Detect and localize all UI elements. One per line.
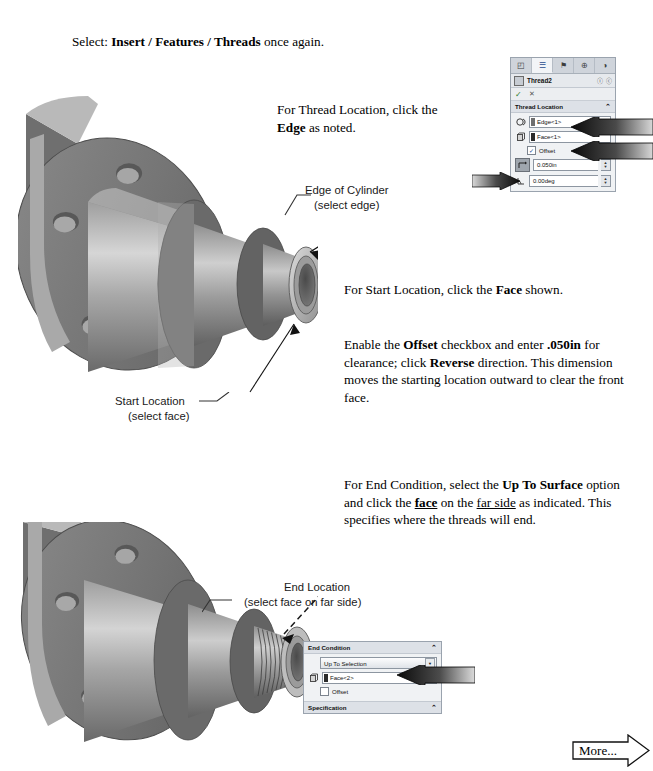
offset-checkbox-label: Offset [539, 147, 555, 154]
callout-end-sub: (select face on far side) [244, 595, 361, 610]
accept-checkmark-icon[interactable]: ✓ [515, 90, 522, 99]
chevron-up-icon[interactable]: ⌃ [605, 103, 611, 111]
dimxpert-manager-tab[interactable]: ⊕ [574, 58, 595, 73]
pin-icon[interactable]: ⓒ [606, 76, 612, 85]
feature-name-label: Thread2 [527, 77, 552, 84]
offset-text-b: checkbox and enter [438, 337, 547, 352]
property-manager-tab-strip[interactable]: ◰ ☰ ⚑ ⊕ ◑ [511, 58, 615, 74]
end-condition-section-header[interactable]: End Condition ⌃ [304, 642, 441, 654]
offset-bold-offset: Offset [403, 337, 437, 352]
callout-edge-title: Edge of Cylinder [305, 183, 389, 198]
thread-location-label: Thread Location [515, 103, 563, 110]
specification-chevron-up-icon[interactable]: ⌃ [431, 704, 437, 712]
specification-label: Specification [308, 704, 347, 711]
edge-color-swatch [531, 118, 535, 126]
start-location-text-a: For Start Location, click the [344, 282, 496, 297]
end-cond-text-a: For End Condition, select the [344, 477, 502, 492]
annotation-arrow-edge [569, 117, 653, 137]
end-cond-bold-upto: Up To Surface [502, 477, 583, 492]
thread-location-line1: For Thread Location, click the [277, 102, 438, 117]
thread-location-line2: as noted. [306, 120, 356, 135]
cancel-x-icon[interactable]: ✕ [529, 90, 535, 98]
angle-field[interactable]: 0.00deg [529, 175, 598, 187]
callout-end-location: End Location (select face on far side) [244, 580, 361, 610]
end-face-color-swatch [324, 674, 328, 682]
property-manager-icon: ☰ [539, 61, 546, 70]
end-offset-checkbox-label: Offset [332, 688, 348, 695]
angle-value: 0.00deg [531, 178, 555, 184]
callout-start-location: Start Location (select face) [115, 394, 190, 424]
intro-suffix: once again. [261, 34, 324, 49]
reverse-direction-button[interactable] [515, 158, 530, 172]
intro-instruction: Select: Insert / Features / Threads once… [72, 33, 472, 51]
end-offset-checkbox[interactable] [320, 687, 329, 696]
callout-leader-start [199, 392, 233, 412]
face-selection-icon [515, 132, 526, 143]
display-manager-icon: ◑ [603, 61, 608, 70]
lower-shaft-model-threaded [18, 522, 318, 771]
annotation-arrow-reverse [472, 172, 520, 190]
upper-shaft-model [18, 84, 318, 424]
angle-stepper-down-icon[interactable]: ▼ [604, 181, 608, 185]
end-condition-label: End Condition [308, 644, 350, 651]
more-button[interactable]: More... [572, 734, 650, 767]
end-cond-text-c: on the [437, 495, 476, 510]
thread-location-bold-edge: Edge [277, 120, 306, 135]
offset-bold-reverse: Reverse [430, 355, 475, 370]
angle-stepper[interactable]: ▲▼ [601, 175, 611, 187]
help-icon[interactable]: ⓘ [597, 76, 603, 85]
callout-leader-edge [283, 187, 311, 217]
ok-cancel-row[interactable]: ✓ ✕ [511, 88, 615, 101]
offset-bold-value: .050in [547, 337, 581, 352]
offset-checkbox[interactable] [527, 146, 536, 155]
annotation-arrow-face [569, 141, 653, 161]
callout-end-title: End Location [284, 580, 361, 595]
paragraph-start-location: For Start Location, click the Face shown… [344, 281, 644, 299]
end-condition-chevron-up-icon[interactable]: ⌃ [431, 644, 437, 652]
end-cond-underline-farside: far side [477, 495, 516, 510]
end-cond-underline-face: face [415, 495, 438, 510]
thread-location-section-header[interactable]: Thread Location ⌃ [511, 101, 615, 113]
property-manager-title-bar: Thread2 ⓘ ⓒ [511, 74, 615, 88]
callout-start-title: Start Location [115, 394, 190, 409]
intro-menu-path: Insert / Features / Threads [111, 34, 260, 49]
face-selection-icon [308, 673, 319, 684]
feature-manager-tab[interactable]: ◰ [511, 58, 532, 73]
configuration-manager-icon: ⚑ [560, 61, 567, 70]
angle-row[interactable]: 0.00deg ▲▼ [515, 175, 611, 187]
display-manager-tab[interactable]: ◑ [595, 58, 615, 73]
offset-distance-value: 0.050in [535, 162, 557, 168]
configuration-manager-tab[interactable]: ⚑ [553, 58, 574, 73]
more-button-label: More... [572, 734, 628, 767]
callout-edge-sub: (select edge) [305, 198, 389, 213]
end-face-selection-value: Face<2> [330, 675, 354, 681]
paragraph-offset: Enable the Offset checkbox and enter .05… [344, 336, 630, 406]
paragraph-thread-location: For Thread Location, click the Edge as n… [277, 101, 482, 136]
dimxpert-icon: ⊕ [581, 61, 588, 70]
start-location-text-b: shown. [522, 282, 563, 297]
edge-selection-icon [515, 117, 526, 128]
thread-feature-icon [514, 76, 524, 86]
edge-selection-value: Edge<1> [537, 119, 561, 125]
callout-leader-end [202, 592, 244, 614]
start-location-bold-face: Face [496, 282, 522, 297]
specification-section-header[interactable]: Specification ⌃ [304, 701, 441, 713]
face-color-swatch [531, 133, 535, 141]
callout-start-sub: (select face) [128, 409, 190, 424]
end-offset-checkbox-row[interactable]: Offset [320, 687, 437, 696]
face-selection-value: Face<1> [537, 134, 561, 140]
property-manager-tab[interactable]: ☰ [532, 58, 553, 73]
end-condition-type-value: Up To Selection [324, 660, 367, 667]
stepper-down-icon[interactable]: ▼ [604, 165, 608, 169]
callout-edge-of-cylinder: Edge of Cylinder (select edge) [305, 183, 389, 213]
paragraph-end-condition: For End Condition, select the Up To Surf… [344, 476, 639, 529]
offset-text-a: Enable the [344, 337, 403, 352]
feature-manager-icon: ◰ [517, 61, 525, 70]
intro-prefix: Select: [72, 34, 111, 49]
annotation-arrow-end-face [395, 665, 475, 685]
